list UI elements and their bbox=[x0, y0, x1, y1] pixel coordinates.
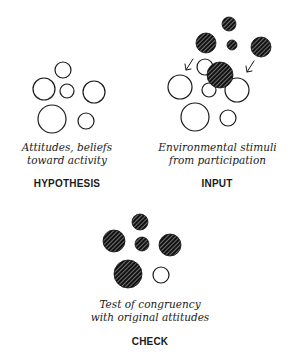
stimulus-circle bbox=[222, 17, 236, 31]
stimulus-circle bbox=[227, 40, 237, 50]
arrow-down-left-icon bbox=[185, 59, 193, 70]
attitude-circle bbox=[33, 78, 55, 100]
congruent-circle bbox=[135, 237, 149, 251]
attitude-circle bbox=[168, 75, 192, 99]
hypothesis-caption-line2: toward activity bbox=[12, 154, 122, 167]
input-caption-line2: from participation bbox=[150, 154, 285, 167]
congruent-circle bbox=[159, 234, 181, 256]
stimulus-circle bbox=[251, 37, 271, 57]
hypothesis-label: HYPOTHESIS bbox=[12, 178, 122, 189]
check-caption-line2: with original attitudes bbox=[75, 311, 225, 324]
attitude-circle bbox=[220, 110, 236, 126]
congruent-circle bbox=[103, 230, 125, 252]
congruent-circle bbox=[132, 214, 148, 230]
input-stimulus-circles bbox=[196, 17, 271, 88]
hypothesis-caption: Attitudes, beliefs toward activity bbox=[12, 141, 122, 167]
attitude-circle bbox=[55, 62, 71, 78]
hypothesis-circles bbox=[33, 62, 105, 133]
attitude-circle bbox=[38, 105, 66, 133]
input-caption-line1: Environmental stimuli bbox=[150, 141, 285, 154]
check-label: CHECK bbox=[105, 336, 195, 347]
incongruent-circle bbox=[153, 267, 169, 283]
attitude-circle bbox=[60, 84, 74, 98]
check-caption-line1: Test of congruency bbox=[75, 298, 225, 311]
attitude-circle bbox=[181, 103, 209, 131]
stimulus-circle bbox=[207, 62, 233, 88]
input-label: INPUT bbox=[172, 178, 262, 189]
stimulus-circle bbox=[196, 33, 216, 53]
hypothesis-caption-line1: Attitudes, beliefs bbox=[12, 141, 122, 154]
attitude-circle bbox=[83, 81, 105, 103]
check-caption: Test of congruency with original attitud… bbox=[75, 298, 225, 324]
input-caption: Environmental stimuli from participation bbox=[150, 141, 285, 167]
attitude-circle bbox=[78, 113, 94, 129]
congruent-circle bbox=[114, 260, 142, 288]
arrow-down-left-icon bbox=[246, 61, 254, 72]
